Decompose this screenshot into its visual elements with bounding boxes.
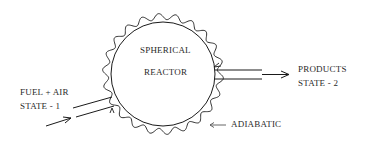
outlet-label: PRODUCTS STATE - 2 bbox=[298, 64, 347, 89]
outlet-label-line1: PRODUCTS bbox=[298, 64, 347, 75]
reactor-label-line1: SPHERICAL bbox=[140, 45, 191, 56]
inlet-label: FUEL + AIR STATE - 1 bbox=[20, 87, 69, 112]
adiabatic-label-text: ADIABATIC bbox=[231, 119, 281, 129]
adiabatic-pointer-arrow-icon bbox=[210, 123, 226, 128]
outlet-pipe bbox=[215, 70, 262, 79]
outlet-arrow-icon bbox=[262, 71, 289, 78]
reactor-label: SPHERICAL REACTOR bbox=[140, 45, 191, 78]
adiabatic-label: ADIABATIC bbox=[231, 119, 281, 130]
inlet-label-line2: STATE - 1 bbox=[20, 101, 69, 112]
reactor-label-line2: REACTOR bbox=[144, 67, 191, 78]
outlet-label-line2: STATE - 2 bbox=[298, 78, 347, 89]
inlet-arrow-icon bbox=[46, 117, 71, 126]
inlet-pipe bbox=[73, 97, 114, 117]
inlet-label-line1: FUEL + AIR bbox=[20, 87, 69, 98]
